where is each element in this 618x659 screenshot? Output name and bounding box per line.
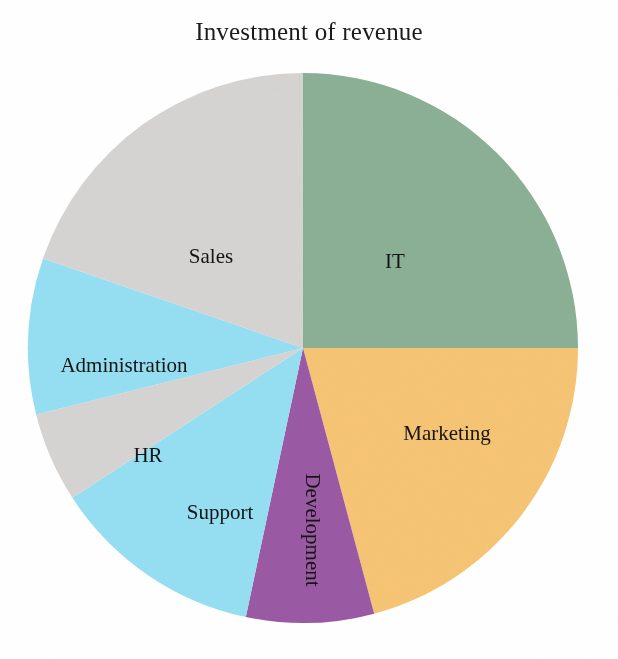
pie-slice-it[interactable] — [303, 73, 578, 348]
pie-slices-group — [28, 73, 578, 623]
pie-chart-svg — [0, 0, 618, 659]
pie-chart-figure: Investment of revenue ITMarketingDevelop… — [0, 0, 618, 659]
